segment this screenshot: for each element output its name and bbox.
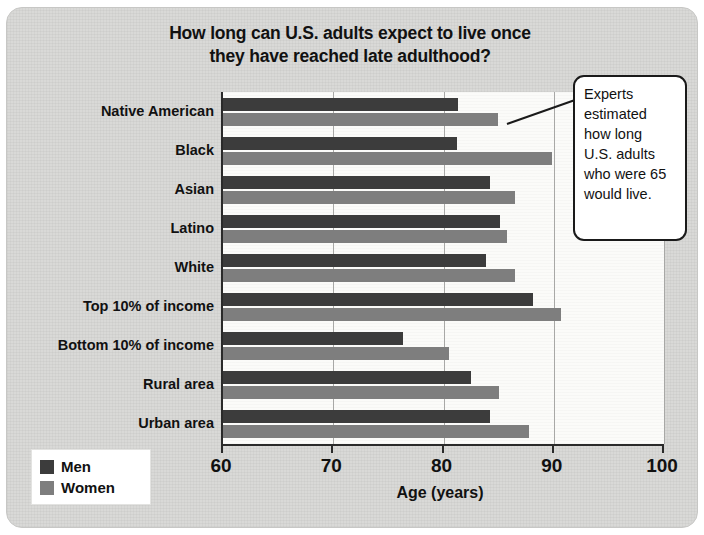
bar-women-asian: [223, 191, 515, 204]
bar-men-urban-area: [223, 410, 490, 423]
chart-figure: How long can U.S. adults expect to live …: [0, 0, 704, 535]
legend-item-women: Women: [40, 477, 142, 498]
bar-women-top-10-of-income: [223, 308, 561, 321]
chart-title-line-1: How long can U.S. adults expect to live …: [60, 22, 640, 45]
y-axis-label-rural-area: Rural area: [14, 376, 214, 392]
callout-line-1: Experts: [584, 84, 677, 104]
chart-title-line-2: they have reached late adulthood?: [60, 45, 640, 68]
callout-line-5: who were 65: [584, 164, 677, 184]
x-tick-label-70: 70: [301, 455, 361, 477]
y-axis-label-white: White: [14, 259, 214, 275]
x-tick-label-80: 80: [412, 455, 472, 477]
x-tick-70: [331, 444, 333, 453]
bar-women-native-american: [223, 113, 498, 126]
bar-women-urban-area: [223, 425, 529, 438]
y-axis-label-top-10-of-income: Top 10% of income: [14, 298, 214, 314]
x-tick-80: [442, 444, 444, 453]
bar-men-rural-area: [223, 371, 471, 384]
bar-men-bottom-10-of-income: [223, 332, 403, 345]
bar-men-black: [223, 137, 457, 150]
y-axis-label-latino: Latino: [14, 220, 214, 236]
legend-item-men: Men: [40, 456, 142, 477]
bar-women-white: [223, 269, 515, 282]
y-axis-label-asian: Asian: [14, 181, 214, 197]
legend-label-women: Women: [61, 479, 115, 496]
x-tick-label-100: 100: [632, 455, 692, 477]
x-tick-100: [662, 444, 664, 453]
y-axis-label-urban-area: Urban area: [14, 415, 214, 431]
x-tick-label-90: 90: [522, 455, 582, 477]
y-axis-label-native-american: Native American: [14, 103, 214, 119]
callout-line-6: would live.: [584, 184, 677, 204]
chart-legend: Men Women: [31, 449, 151, 505]
callout-box: Experts estimated how long U.S. adults w…: [573, 75, 687, 241]
x-axis-label: Age (years): [290, 484, 590, 502]
x-tick-60: [221, 444, 223, 453]
bar-women-latino: [223, 230, 507, 243]
bar-women-rural-area: [223, 386, 499, 399]
bar-men-latino: [223, 215, 500, 228]
bar-women-black: [223, 152, 552, 165]
bar-men-top-10-of-income: [223, 293, 533, 306]
callout-line-3: how long: [584, 124, 677, 144]
y-axis-label-bottom-10-of-income: Bottom 10% of income: [14, 337, 214, 353]
callout-line-4: U.S. adults: [584, 144, 677, 164]
bar-women-bottom-10-of-income: [223, 347, 449, 360]
bar-men-native-american: [223, 98, 458, 111]
legend-swatch-women-icon: [40, 481, 54, 495]
gridline-90: [554, 92, 555, 444]
legend-label-men: Men: [61, 458, 91, 475]
x-tick-label-60: 60: [191, 455, 251, 477]
legend-swatch-men-icon: [40, 460, 54, 474]
bar-men-asian: [223, 176, 490, 189]
y-axis-label-black: Black: [14, 142, 214, 158]
bar-men-white: [223, 254, 486, 267]
x-tick-90: [552, 444, 554, 453]
chart-title: How long can U.S. adults expect to live …: [60, 22, 640, 68]
callout-line-2: estimated: [584, 104, 677, 124]
y-axis-labels: Native AmericanBlackAsianLatinoWhiteTop …: [8, 92, 214, 444]
